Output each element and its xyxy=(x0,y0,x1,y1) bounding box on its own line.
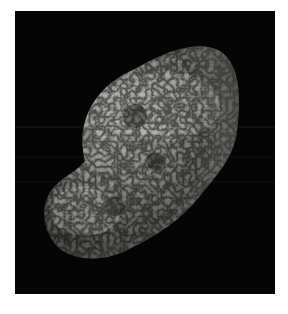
moon-photo: Grayscale photograph of Hyperion, a poro… xyxy=(15,11,275,294)
hyperion-illustration xyxy=(15,11,275,294)
